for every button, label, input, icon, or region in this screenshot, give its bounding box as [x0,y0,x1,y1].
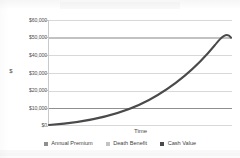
y-tick-label-50000: $50,000 [14,34,47,40]
line-chart: $ $60,000 $50,000 $40,000 $30,000 $20,00… [0,0,240,158]
y-tickmark-0 [45,126,48,127]
y-tick-label-30000: $30,000 [14,70,47,76]
legend-label-death-benefit: Death Benefit [113,140,147,147]
x-axis-title: Time [49,127,232,135]
chart-legend: Annual Premium Death Benefit Cash Value [0,140,240,147]
legend-item-death-benefit[interactable]: Death Benefit [106,140,147,147]
y-tick-label-10000: $10,000 [14,105,47,111]
y-tick-label-20000: $20,000 [14,87,47,93]
legend-swatch-icon-death-benefit [106,142,110,146]
y-axis-tick-labels: $60,000 $50,000 $40,000 $30,000 $20,000 … [14,0,47,158]
legend-label-annual-premium: Annual Premium [51,140,92,147]
legend-item-cash-value[interactable]: Cash Value [160,140,196,147]
y-tick-label-40000: $40,000 [14,52,47,58]
legend-item-annual-premium[interactable]: Annual Premium [44,140,93,147]
y-tick-label-0: $0 [14,122,47,128]
y-tick-label-60000: $60,000 [14,17,47,23]
legend-swatch-icon-annual-premium [44,142,48,146]
series-curve-cash-value [49,20,232,126]
plot-area [49,20,232,126]
legend-label-cash-value: Cash Value [168,140,197,147]
legend-swatch-icon-cash-value [160,142,164,146]
